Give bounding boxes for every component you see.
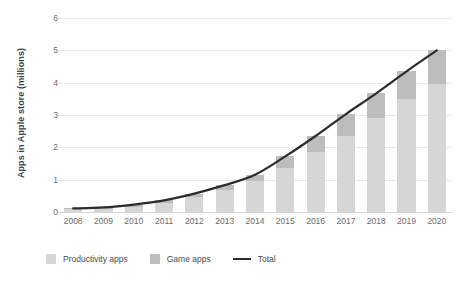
x-tick-label-2016: 2016 — [306, 216, 325, 226]
x-tick-label-2013: 2013 — [215, 216, 234, 226]
x-tick-label-2020: 2020 — [427, 216, 446, 226]
legend-item[interactable]: Game apps — [150, 254, 211, 264]
total-line — [73, 50, 437, 208]
legend-label: Total — [258, 254, 276, 264]
y-tick-label: 5 — [34, 45, 58, 55]
legend-label: Productivity apps — [63, 254, 128, 264]
legend-item[interactable]: Productivity apps — [46, 254, 128, 264]
x-tick-label-2017: 2017 — [336, 216, 355, 226]
y-tick-label: 4 — [34, 78, 58, 88]
y-tick-label: 2 — [34, 142, 58, 152]
x-tick-label-2018: 2018 — [367, 216, 386, 226]
y-tick-label: 6 — [34, 13, 58, 23]
y-tick-label: 3 — [34, 110, 58, 120]
y-tick-label: 0 — [34, 207, 58, 217]
legend-item[interactable]: Total — [233, 254, 276, 264]
x-tick-label-2011: 2011 — [155, 216, 173, 226]
x-tick-label-2015: 2015 — [276, 216, 295, 226]
x-tick-label-2008: 2008 — [64, 216, 83, 226]
legend-swatch-icon — [46, 254, 56, 264]
x-tick-label-2014: 2014 — [246, 216, 265, 226]
chart-legend: Productivity appsGame appsTotal — [46, 252, 298, 266]
plot-area — [58, 18, 452, 212]
x-tick-label-2009: 2009 — [94, 216, 113, 226]
legend-swatch-icon — [150, 254, 160, 264]
legend-line-marker-icon — [233, 258, 251, 261]
y-axis-title: Apps in Apple store (millions) — [10, 0, 32, 228]
gridline — [58, 212, 452, 213]
total-line-layer — [58, 18, 452, 212]
y-tick-label: 1 — [34, 175, 58, 185]
legend-label: Game apps — [167, 254, 211, 264]
x-tick-label-2012: 2012 — [185, 216, 204, 226]
chart-container: Apps in Apple store (millions) 0123456 2… — [0, 0, 471, 282]
x-tick-label-2019: 2019 — [397, 216, 416, 226]
x-tick-label-2010: 2010 — [124, 216, 143, 226]
x-axis-ticks: 2008200920102011201220132014201520162017… — [58, 214, 452, 230]
